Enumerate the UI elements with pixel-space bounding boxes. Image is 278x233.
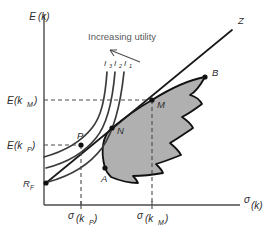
point-dot-RF [43,180,48,185]
point-label-P: P [77,130,84,141]
y-axis-title: E (k) [29,11,49,22]
point-label-A: A [100,173,107,184]
capital-market-line-chart: Increasing utility I 3 I 2 I 1 Z B M N [0,0,278,233]
y-tick-EkP-paren-close: ) [31,140,35,151]
y-tick-EkM-paren-open: (k [14,95,23,106]
x-axis-title-paren: (k) [251,200,263,211]
x-tick-sigma-kM-paren-close: ) [164,213,168,224]
point-dot-M [149,97,154,102]
y-tick-EkM-main: E [7,95,14,106]
y-axis-title-paren: (k) [38,11,50,22]
risk-free-rate-main: R [23,178,30,189]
y-tick-EkM-paren-close: ) [33,95,37,106]
svg-text:1: 1 [129,63,132,69]
x-tick-sigma-kP-paren-close: ) [93,213,97,224]
x-tick-sigma-kP-paren-open: (k [76,213,85,224]
x-axis-title-main: σ [244,194,251,205]
y-axis-title-main: E [29,11,36,22]
point-dot-A [102,165,107,170]
x-tick-sigma-kM-paren-open: (k [145,213,154,224]
y-tick-EkP-main: E [7,140,14,151]
point-label-Z: Z [237,15,245,26]
point-label-B: B [212,67,219,78]
point-label-N: N [117,125,124,136]
point-dot-P [78,142,83,147]
point-label-M: M [157,99,165,110]
svg-text:2: 2 [118,63,122,69]
x-tick-sigma-kM-sub: M [158,219,164,226]
x-tick-sigma-kP-main: σ [68,210,75,221]
y-tick-EkM-sub: M [27,101,33,108]
x-tick-sigma-kM-main: σ [137,210,144,221]
y-tick-EkP-paren-open: (k [14,140,23,151]
figure-container: Increasing utility I 3 I 2 I 1 Z B M N [0,0,278,233]
point-dot-N [109,125,114,130]
point-dot-B [202,74,207,79]
increasing-utility-label: Increasing utility [88,31,156,42]
